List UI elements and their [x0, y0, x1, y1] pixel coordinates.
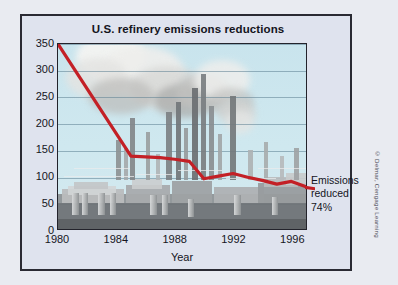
- y-tick-150: 150: [24, 144, 54, 155]
- x-tick-1992: 1992: [221, 233, 245, 245]
- x-tick-1988: 1988: [162, 233, 186, 245]
- y-tick-250: 250: [24, 91, 54, 102]
- y-tick-300: 300: [24, 64, 54, 75]
- y-tick-200: 200: [24, 118, 54, 129]
- emissions-line-chart: [58, 44, 306, 229]
- figure-frame: U.S. refinery emissions reductions 05010…: [20, 14, 352, 271]
- plot-inner: [58, 44, 306, 229]
- x-axis-label: Year: [57, 251, 307, 263]
- emissions-data-line: [58, 44, 306, 187]
- x-axis-ticks: 19801984198819921996: [57, 233, 307, 247]
- x-tick-1996: 1996: [280, 233, 304, 245]
- y-tick-50: 50: [24, 198, 54, 209]
- chart-title: U.S. refinery emissions reductions: [22, 23, 354, 35]
- figure-root: U.S. refinery emissions reductions 05010…: [0, 0, 398, 285]
- annotation-line-3: 74%: [311, 201, 357, 214]
- y-tick-100: 100: [24, 171, 54, 182]
- annotation-line-2: reduced: [311, 187, 357, 200]
- annotation-line-1: Emissions: [311, 174, 357, 187]
- copyright-credit: © Delmar, Cengage Learning: [374, 150, 381, 238]
- x-tick-1984: 1984: [104, 233, 128, 245]
- y-tick-350: 350: [24, 38, 54, 49]
- plot-area: [57, 43, 307, 230]
- y-axis-ticks: 050100150200250300350: [22, 43, 54, 230]
- emissions-reduction-annotation: Emissions reduced 74%: [311, 174, 357, 214]
- x-tick-1980: 1980: [45, 233, 69, 245]
